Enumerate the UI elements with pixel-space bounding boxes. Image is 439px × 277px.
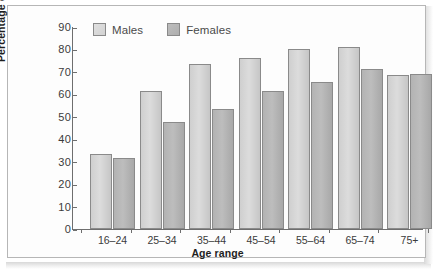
y-axis-tick-label: 40	[54, 133, 72, 145]
plot-area: 0102030405060708090	[72, 27, 422, 229]
bar-group	[90, 27, 135, 229]
bar-females[interactable]	[410, 74, 432, 229]
legend-swatch-males-icon	[93, 23, 106, 36]
x-axis-tick-label: 45–54	[246, 234, 275, 246]
bar-males[interactable]	[338, 47, 360, 229]
bar-group	[338, 27, 383, 229]
page-edge-shadow-bottom	[6, 262, 431, 269]
legend-item-males: Males	[93, 23, 143, 36]
bar-females[interactable]	[163, 122, 185, 229]
x-axis-line	[72, 229, 423, 230]
bar-females[interactable]	[212, 109, 234, 229]
x-axis-title: Age range	[8, 247, 427, 259]
y-axis-title: Percentage overweight	[0, 0, 7, 62]
bar-group	[140, 27, 185, 229]
bar-females[interactable]	[262, 91, 284, 229]
y-axis-tick-label: 20	[54, 178, 72, 190]
chart-frame: Percentage overweight 010203040506070809…	[7, 5, 426, 258]
x-axis-tick-mark	[279, 229, 280, 233]
y-axis-tick-label: 60	[54, 88, 72, 100]
x-axis-tick-label: 55–64	[296, 234, 325, 246]
bar-females[interactable]	[311, 82, 333, 229]
x-axis-tick-label: 75+	[401, 234, 419, 246]
x-axis-tick-mark	[180, 229, 181, 233]
bar-males[interactable]	[90, 154, 112, 229]
legend-label-males: Males	[112, 24, 143, 36]
figure-container: Percentage overweight 010203040506070809…	[0, 0, 439, 277]
bar-females[interactable]	[113, 158, 135, 229]
x-axis-tick-label: 35–44	[197, 234, 226, 246]
x-axis-tick-mark	[428, 229, 429, 233]
bar-males[interactable]	[239, 58, 261, 229]
y-axis-tick-label: 0	[54, 223, 72, 235]
x-axis-tick-mark	[230, 229, 231, 233]
y-axis-tick-label: 10	[54, 201, 72, 213]
bar-males[interactable]	[387, 75, 409, 229]
bar-males[interactable]	[189, 64, 211, 229]
x-axis-tick-mark	[329, 229, 330, 233]
bar-group	[189, 27, 234, 229]
y-axis-tick-label: 70	[54, 66, 72, 78]
bar-group	[387, 27, 432, 229]
x-axis-tick-mark	[378, 229, 379, 233]
x-axis-tick-mark	[81, 229, 82, 233]
bar-females[interactable]	[361, 69, 383, 229]
x-axis-tick-mark	[131, 229, 132, 233]
y-axis-tick-label: 50	[54, 111, 72, 123]
legend-swatch-females-icon	[167, 23, 180, 36]
x-axis-tick-label: 25–34	[147, 234, 176, 246]
bar-group	[288, 27, 333, 229]
legend-item-females: Females	[167, 23, 231, 36]
y-axis-tick-label: 90	[54, 21, 72, 33]
x-axis-tick-label: 65–74	[345, 234, 374, 246]
legend: Males Females	[93, 23, 231, 36]
bar-group	[239, 27, 284, 229]
bar-males[interactable]	[140, 91, 162, 229]
x-axis-tick-label: 16–24	[98, 234, 127, 246]
y-axis-tick-label: 30	[54, 156, 72, 168]
y-axis-tick-label: 80	[54, 43, 72, 55]
legend-label-females: Females	[186, 24, 231, 36]
bar-males[interactable]	[288, 49, 310, 229]
